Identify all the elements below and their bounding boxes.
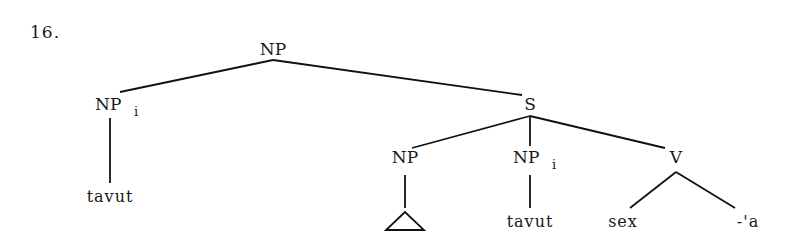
node-np-i-left-subscript: i bbox=[134, 104, 138, 119]
triangle-icon bbox=[386, 212, 424, 230]
leaf-a-suffix: -'a bbox=[737, 212, 759, 231]
syntax-tree-diagram: 16. NP NP i tavut S NP NP i tavut V sex … bbox=[0, 0, 796, 242]
node-np-i-right-subscript: i bbox=[552, 157, 556, 172]
edge-v-to-a bbox=[676, 172, 735, 208]
edge-root-to-np-i bbox=[120, 60, 273, 92]
edge-root-to-s bbox=[273, 60, 522, 95]
node-np-i-right-label: NP bbox=[513, 147, 539, 167]
node-root-np: NP bbox=[260, 39, 286, 59]
leaf-tavut-right: tavut bbox=[507, 212, 554, 231]
example-number: 16. bbox=[30, 22, 60, 42]
leaf-sex: sex bbox=[608, 212, 638, 231]
edge-s-to-np bbox=[412, 116, 530, 148]
node-np-i-left-label: NP bbox=[95, 94, 121, 114]
node-v: V bbox=[669, 147, 683, 167]
edge-v-to-sex bbox=[630, 172, 676, 208]
node-np-i-right: NP i bbox=[513, 147, 556, 172]
node-np-empty: NP bbox=[392, 147, 418, 167]
node-s: S bbox=[524, 94, 536, 114]
leaf-tavut-left: tavut bbox=[87, 187, 134, 206]
node-np-i-left: NP i bbox=[95, 94, 138, 119]
edge-s-to-v bbox=[530, 116, 665, 148]
